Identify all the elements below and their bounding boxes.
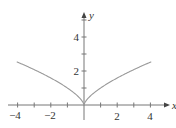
x-axis-label: x — [171, 99, 176, 111]
x-tick-label-neg4: −4 — [9, 109, 21, 121]
x-tick-label-2: 2 — [114, 110, 120, 122]
y-axis-label: y — [88, 9, 94, 21]
chart: −4 −2 2 4 2 4 y x — [0, 0, 176, 128]
axes — [8, 12, 170, 120]
x-tick-label-4: 4 — [147, 110, 153, 122]
y-axis-arrow-icon — [82, 12, 87, 18]
x-axis-arrow-icon — [164, 103, 170, 108]
y-tick-label-2: 2 — [74, 65, 80, 77]
x-tick-label-neg2: −2 — [44, 109, 56, 121]
chart-svg: −4 −2 2 4 2 4 y x — [0, 0, 176, 128]
y-tick-label-4: 4 — [74, 31, 80, 43]
